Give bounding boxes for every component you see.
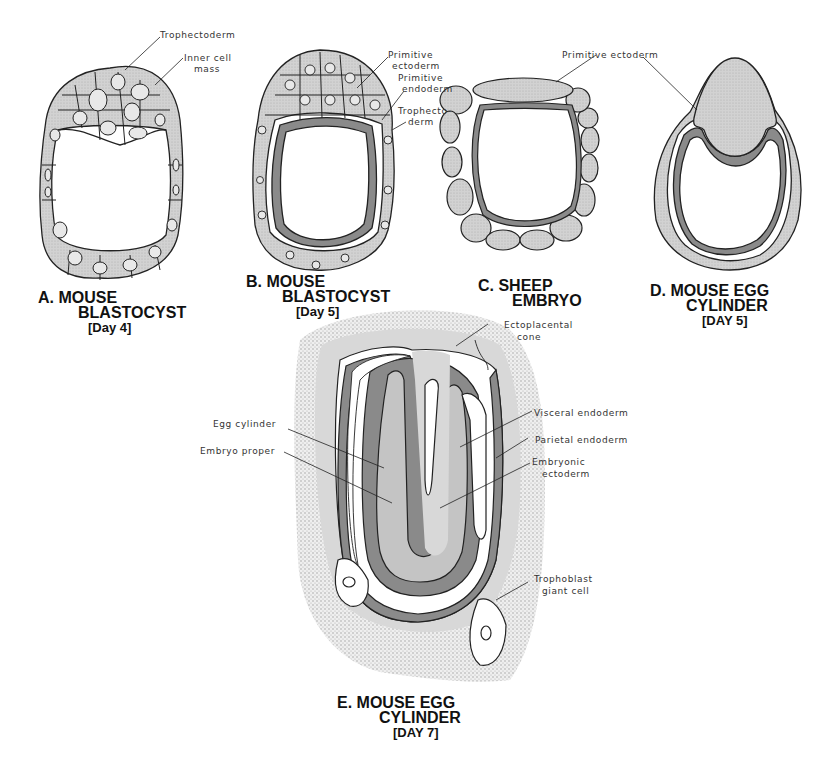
label-embryonic-ectoderm-2: ectoderm bbox=[542, 469, 590, 479]
label-visceral-endoderm: Visceral endoderm bbox=[534, 408, 628, 418]
panel-e-title-line3: [DAY 7] bbox=[393, 725, 461, 740]
panel-e-title: E. MOUSE EGG CYLINDER [DAY 7] bbox=[337, 695, 461, 740]
label-primitive-ectoderm-b-1: Primitive bbox=[388, 50, 433, 60]
panel-d-title-line2: CYLINDER bbox=[686, 298, 769, 313]
panel-e-title-line2: CYLINDER bbox=[379, 710, 461, 725]
label-trophectoderm-b-1: Trophecto- bbox=[398, 106, 452, 116]
label-trophoblast-giant-cell-2: giant cell bbox=[542, 586, 589, 596]
panel-a-title-line2: BLASTOCYST bbox=[78, 305, 186, 320]
panel-b-title-line1: B. MOUSE bbox=[246, 274, 390, 289]
label-primitive-endoderm-b-2: endoderm bbox=[402, 84, 453, 94]
panel-b-title-line2: BLASTOCYST bbox=[282, 289, 390, 304]
panel-b-title: B. MOUSE BLASTOCYST [Day 5] bbox=[246, 274, 390, 319]
panel-a-blastocyst-day4 bbox=[40, 37, 183, 280]
panel-c-title-line2: EMBRYO bbox=[512, 293, 582, 308]
panel-d-title-line1: D. MOUSE EGG bbox=[650, 283, 769, 298]
panel-b-blastocyst-day5 bbox=[253, 50, 406, 270]
label-primitive-ectoderm-b-2: ectoderm bbox=[392, 61, 440, 71]
label-trophectoderm-b-2: derm bbox=[408, 117, 434, 127]
panel-c-title-line1: C. SHEEP bbox=[478, 278, 582, 293]
label-inner-cell-mass-a-1: Inner cell bbox=[184, 53, 232, 63]
panel-e-title-line1: E. MOUSE EGG bbox=[337, 695, 461, 710]
panel-a-title-line1: A. MOUSE bbox=[38, 290, 186, 305]
label-embryo-proper: Embryo proper bbox=[200, 446, 275, 456]
panel-d-egg-cylinder-day5 bbox=[643, 57, 801, 270]
label-trophectoderm-a: Trophectoderm bbox=[160, 30, 235, 40]
panel-c-title: C. SHEEP EMBRYO bbox=[478, 278, 582, 308]
label-primitive-ectoderm-c: Primitive ectoderm bbox=[562, 50, 658, 60]
label-primitive-endoderm-b-1: Primitive bbox=[398, 73, 443, 83]
label-embryonic-ectoderm-1: Embryonic bbox=[532, 457, 585, 467]
label-ectoplacental-cone-1: Ectoplacental bbox=[504, 320, 573, 330]
label-trophoblast-giant-cell-1: Trophoblast bbox=[534, 574, 593, 584]
panel-e-egg-cylinder-day7 bbox=[284, 310, 545, 681]
panel-c-sheep-embryo bbox=[440, 55, 599, 250]
panel-a-title: A. MOUSE BLASTOCYST [Day 4] bbox=[38, 290, 186, 335]
panel-d-title: D. MOUSE EGG CYLINDER [DAY 5] bbox=[650, 283, 769, 328]
label-parietal-endoderm: Parietal endoderm bbox=[535, 435, 628, 445]
panel-d-title-line3: [DAY 5] bbox=[702, 313, 769, 328]
panel-a-title-line3: [Day 4] bbox=[88, 320, 186, 335]
label-ectoplacental-cone-2: cone bbox=[517, 332, 541, 342]
panel-b-title-line3: [Day 5] bbox=[296, 304, 390, 319]
label-inner-cell-mass-a-2: mass bbox=[194, 64, 220, 74]
label-egg-cylinder: Egg cylinder bbox=[213, 419, 276, 429]
